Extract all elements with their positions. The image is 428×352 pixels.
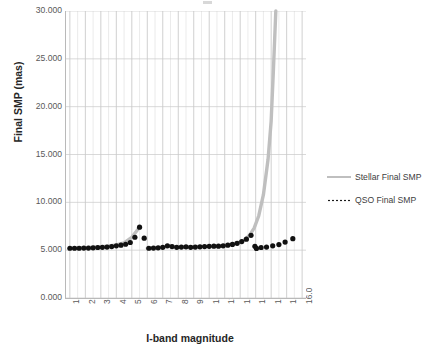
plot-area (65, 11, 306, 299)
chart-legend: Stellar Final SMPQSO Final SMP (327, 168, 427, 214)
legend-solid-line-icon (327, 172, 351, 182)
legend-dotted-line-icon (327, 195, 351, 205)
legend-item[interactable]: Stellar Final SMP (327, 168, 427, 186)
legend-item-label: QSO Final SMP (355, 195, 416, 205)
legend-item-label: Stellar Final SMP (355, 172, 421, 182)
chart-container: Final SMP (mas) I-band magnitude 0.0005.… (0, 0, 428, 352)
data-series-layer (66, 11, 306, 298)
legend-item[interactable]: QSO Final SMP (327, 191, 427, 209)
